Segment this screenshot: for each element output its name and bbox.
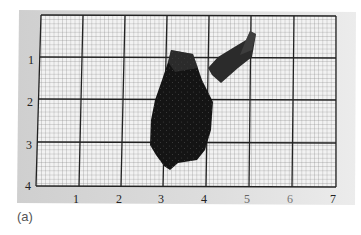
x-label-3: 3 [158,192,164,207]
x-label-5: 5 [244,192,250,207]
figure: 1 2 3 4 1 2 3 4 5 6 7 (a) [0,0,361,235]
y-label-1: 1 [28,53,34,68]
figure-caption: (a) [17,209,33,224]
x-label-6: 6 [287,192,293,207]
x-label-2: 2 [116,192,122,207]
x-label-7: 7 [330,192,336,207]
graph-paper-photo [0,0,361,235]
y-label-4: 4 [25,179,31,194]
x-label-4: 4 [201,192,207,207]
x-label-1: 1 [73,192,79,207]
y-label-3: 3 [26,138,32,153]
y-label-2: 2 [27,95,33,110]
